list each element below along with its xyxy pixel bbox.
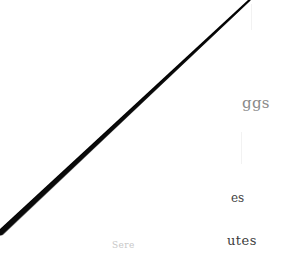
text-fragment-faint: Sere	[112, 240, 135, 250]
text-fragment-utes: utes	[227, 233, 257, 248]
faint-rule	[241, 132, 242, 164]
document-page: ggs es Sere utes	[0, 0, 282, 269]
text-fragment-es: es	[231, 191, 244, 205]
faint-rule	[251, 4, 252, 30]
diagonal-strike-line	[0, 0, 282, 269]
text-fragment-eggs: ggs	[242, 94, 270, 112]
